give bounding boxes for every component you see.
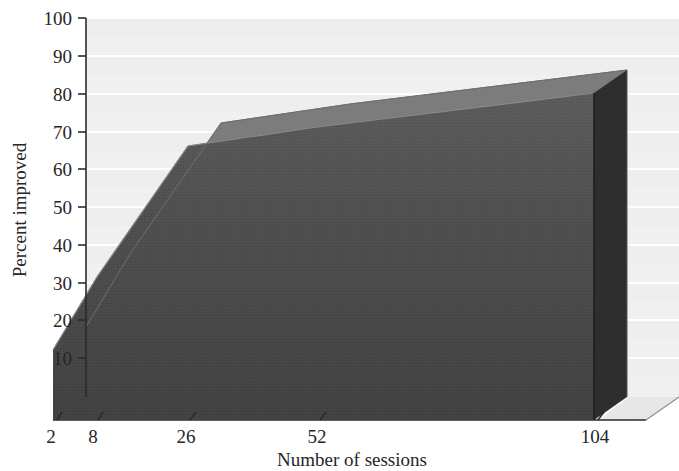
x-tick-label-52: 52: [308, 426, 327, 447]
area-right-side-face: [594, 70, 627, 420]
y-tick-label-20: 20: [53, 310, 72, 331]
y-tick-label-50: 50: [53, 197, 72, 218]
y-tick-label-40: 40: [53, 235, 72, 256]
x-axis-title: Number of sessions: [277, 449, 427, 470]
y-tick-label-80: 80: [53, 84, 72, 105]
x-tick-label-104: 104: [581, 426, 610, 447]
y-tick-label-100: 100: [44, 8, 73, 29]
x-tick-label-2: 2: [46, 426, 56, 447]
area-chart-canvas: 100 90 80 70 60 50 40 30 20 10 Percent i…: [0, 0, 679, 471]
y-tick-label-60: 60: [53, 159, 72, 180]
y-tick-label-70: 70: [53, 122, 72, 143]
chart-figure: 100 90 80 70 60 50 40 30 20 10 Percent i…: [0, 0, 679, 471]
x-tick-label-8: 8: [88, 426, 98, 447]
x-tick-label-26: 26: [177, 426, 196, 447]
y-axis-title: Percent improved: [9, 142, 30, 277]
y-tick-label-90: 90: [53, 46, 72, 67]
y-tick-label-30: 30: [53, 273, 72, 294]
y-tick-label-10: 10: [53, 348, 72, 369]
